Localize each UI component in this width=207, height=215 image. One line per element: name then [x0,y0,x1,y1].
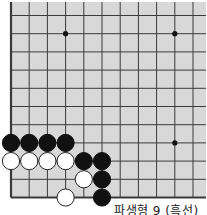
white-stone [39,153,56,170]
board-background [11,2,206,198]
black-stone [93,189,110,206]
white-stone [21,153,38,170]
white-stone [57,153,74,170]
black-stone [57,134,74,151]
star-point [172,31,177,36]
star-point [172,140,177,145]
go-board [0,0,207,215]
black-stone [75,153,92,170]
black-stone [2,134,19,151]
black-stone [21,134,38,151]
white-stone [2,153,19,170]
white-stone [75,171,92,188]
black-stone [93,153,110,170]
white-stone [57,189,74,206]
diagram-caption: 파생형 9 (흑선) [114,201,199,215]
black-stone [93,171,110,188]
black-stone [39,134,56,151]
star-point [63,31,68,36]
